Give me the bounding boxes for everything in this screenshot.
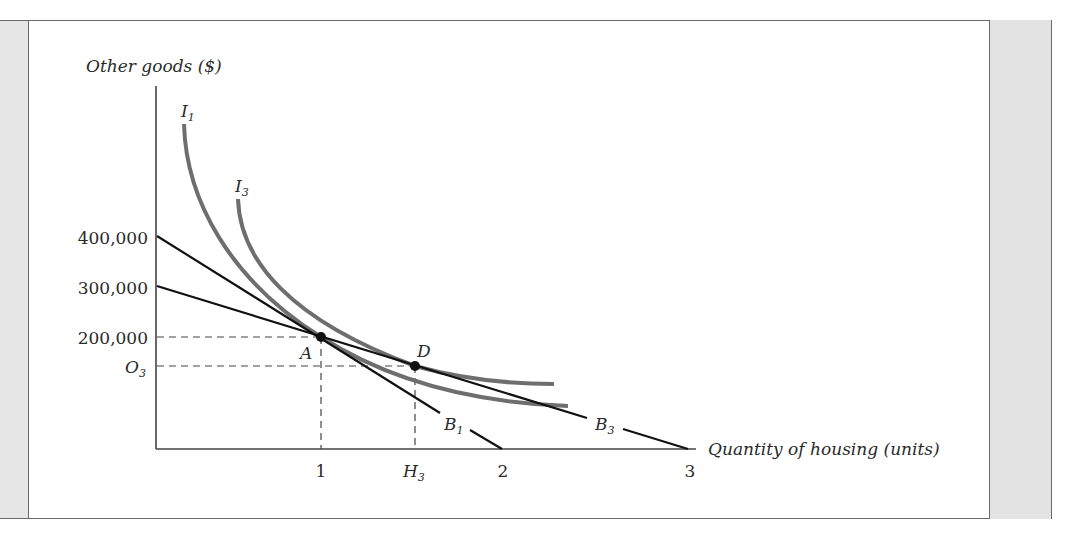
x-tick-1: 1 xyxy=(316,461,327,481)
x-axis-label: Quantity of housing (units) xyxy=(708,439,940,459)
label-b1: B1 xyxy=(443,414,464,437)
budget-line-b3 xyxy=(157,286,587,418)
y-tick-400000: 400,000 xyxy=(78,228,148,248)
budget-line-b1-tail xyxy=(470,430,502,449)
label-i3: I3 xyxy=(234,176,249,199)
label-point-a: A xyxy=(298,343,312,363)
x-tick-3: 3 xyxy=(685,461,696,481)
y-tick-300000: 300,000 xyxy=(78,278,148,298)
indifference-curve-i3 xyxy=(238,199,554,384)
label-b3: B3 xyxy=(594,414,615,437)
chart: Other goods ($) Quantity of housing (uni… xyxy=(0,0,1092,543)
label-i1: I1 xyxy=(180,101,195,124)
label-point-d: D xyxy=(416,341,431,361)
budget-line-b3-tail xyxy=(623,429,688,449)
point-a-marker xyxy=(316,332,326,342)
y-axis-label: Other goods ($) xyxy=(86,56,222,76)
x-tick-2: 2 xyxy=(498,461,509,481)
indifference-curve-i1 xyxy=(184,124,568,406)
y-tick-o3: O3 xyxy=(125,357,146,380)
y-tick-200000: 200,000 xyxy=(78,328,148,348)
x-tick-h3: H3 xyxy=(402,461,425,484)
budget-line-b1 xyxy=(157,236,440,413)
point-d-marker xyxy=(410,361,420,371)
